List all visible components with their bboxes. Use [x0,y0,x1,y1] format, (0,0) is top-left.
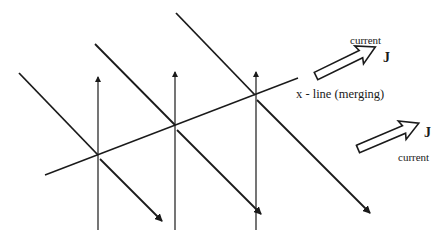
current-label-bottom: current [398,152,429,163]
lower-arrow-1 [100,159,162,221]
x-line [45,78,298,175]
lower-arrow-3 [257,100,370,213]
lower-arrow-2 [177,130,261,214]
upper-diagonal-2 [95,44,175,125]
field-line-1 [19,73,162,230]
j-label-bottom: J [424,126,431,140]
upper-diagonal-1 [19,73,98,155]
field-line-2 [95,44,261,230]
current-label-top: current [350,35,381,46]
x-line-label: x - line (merging) [296,88,384,101]
reconnection-diagram: current J x - line (merging) J current [0,0,447,242]
upper-diagonal-3 [176,13,255,95]
j-label-top: J [383,51,390,65]
field-line-3 [176,13,370,230]
